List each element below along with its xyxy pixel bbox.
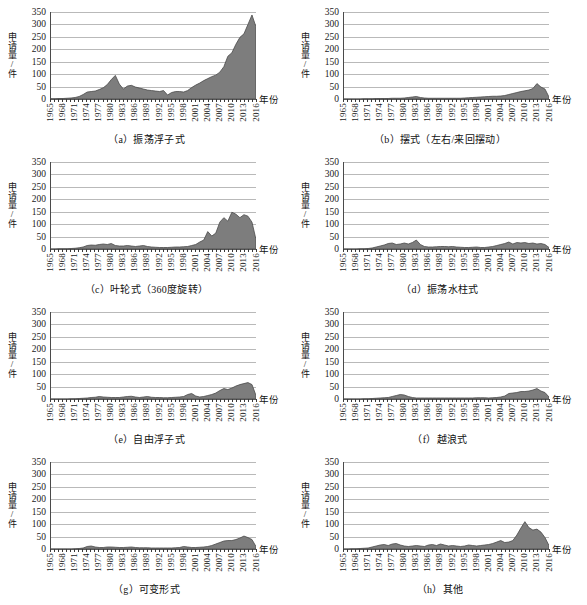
- y-tick-label: 300: [32, 470, 46, 479]
- x-tick-mark: [216, 549, 217, 552]
- x-tick-label: 1995: [167, 553, 176, 572]
- x-tick-label: 2007: [215, 403, 224, 422]
- y-axis-tick-labels: 050100150200250300350: [309, 457, 339, 553]
- x-tick-mark: [371, 399, 372, 402]
- x-tick-mark: [62, 99, 63, 102]
- x-tick-mark: [533, 549, 534, 552]
- x-tick-mark: [371, 99, 372, 102]
- x-tick-mark: [54, 99, 55, 102]
- x-tick-mark: [383, 549, 384, 552]
- x-tick-label: 2007: [508, 403, 517, 422]
- x-tick-mark: [545, 99, 546, 102]
- x-tick-label: 2013: [239, 403, 248, 422]
- x-tick-mark: [347, 549, 348, 552]
- x-tick-mark: [387, 99, 388, 102]
- x-tick-label: 1971: [363, 103, 372, 122]
- x-tick-mark: [74, 99, 75, 102]
- x-tick-label: 1998: [179, 553, 188, 572]
- y-tick-label: 350: [325, 158, 339, 167]
- x-tick-mark: [476, 399, 477, 402]
- x-tick-mark: [456, 549, 457, 552]
- y-axis-title: 申请量/件: [296, 464, 310, 546]
- x-tick-mark: [509, 99, 510, 102]
- x-tick-mark: [86, 549, 87, 552]
- x-tick-mark: [256, 99, 257, 102]
- x-tick-mark: [159, 399, 160, 402]
- plot-area: [50, 162, 256, 249]
- x-tick-mark: [212, 399, 213, 402]
- x-tick-mark: [58, 399, 59, 402]
- x-tick-mark: [521, 399, 522, 402]
- chart-panel-d: 申请量/件05010015020025030035019651968197119…: [293, 150, 587, 300]
- x-tick-mark: [103, 549, 104, 552]
- x-tick-label: 1995: [460, 553, 469, 572]
- x-tick-mark: [155, 249, 156, 252]
- x-tick-mark: [155, 99, 156, 102]
- x-tick-mark: [58, 99, 59, 102]
- x-tick-mark: [50, 399, 51, 402]
- x-tick-label: 1968: [58, 553, 67, 572]
- x-tick-mark: [509, 399, 510, 402]
- x-tick-label: 1974: [82, 403, 91, 422]
- x-tick-mark: [444, 99, 445, 102]
- x-tick-mark: [351, 99, 352, 102]
- x-tick-mark: [396, 399, 397, 402]
- x-tick-label: 2001: [484, 103, 493, 122]
- x-tick-mark: [496, 99, 497, 102]
- x-tick-mark: [135, 249, 136, 252]
- x-tick-mark: [404, 249, 405, 252]
- x-axis-tick-labels: 1965196819711974197719801983198619891992…: [343, 403, 549, 429]
- x-tick-label: 1986: [423, 103, 432, 122]
- x-tick-mark: [521, 549, 522, 552]
- plot-area: [343, 462, 549, 549]
- x-tick-label: 1971: [70, 253, 79, 272]
- x-tick-mark: [208, 99, 209, 102]
- x-tick-label: 2013: [239, 103, 248, 122]
- x-tick-label: 1977: [94, 403, 103, 422]
- x-tick-mark: [492, 549, 493, 552]
- x-tick-mark: [492, 249, 493, 252]
- y-axis-title: 申请量/件: [296, 314, 310, 396]
- x-tick-mark: [175, 549, 176, 552]
- x-axis-title: 年份: [259, 242, 279, 256]
- x-tick-mark: [66, 249, 67, 252]
- y-axis-tick-labels: 050100150200250300350: [309, 157, 339, 253]
- x-tick-mark: [159, 249, 160, 252]
- x-tick-mark: [452, 399, 453, 402]
- x-tick-mark: [424, 249, 425, 252]
- y-tick-label: 50: [37, 232, 47, 241]
- y-tick-label: 50: [330, 382, 340, 391]
- x-tick-mark: [224, 399, 225, 402]
- x-tick-mark: [240, 399, 241, 402]
- y-tick-label: 200: [32, 495, 46, 504]
- x-tick-mark: [212, 249, 213, 252]
- panel-caption: （e）自由浮子式: [0, 431, 293, 446]
- x-tick-mark: [400, 249, 401, 252]
- x-tick-mark: [98, 99, 99, 102]
- x-tick-mark: [131, 399, 132, 402]
- x-tick-mark: [375, 99, 376, 102]
- x-tick-mark: [155, 399, 156, 402]
- x-tick-mark: [359, 249, 360, 252]
- x-tick-label: 1983: [118, 553, 127, 572]
- x-tick-mark: [187, 99, 188, 102]
- x-tick-mark: [127, 399, 128, 402]
- x-tick-mark: [70, 549, 71, 552]
- x-tick-mark: [208, 549, 209, 552]
- x-tick-label: 1974: [82, 253, 91, 272]
- x-tick-mark: [82, 99, 83, 102]
- x-tick-mark: [436, 99, 437, 102]
- x-tick-mark: [533, 249, 534, 252]
- x-tick-mark: [167, 99, 168, 102]
- x-tick-mark: [195, 99, 196, 102]
- x-tick-mark: [492, 399, 493, 402]
- x-tick-mark: [448, 399, 449, 402]
- x-tick-label: 1977: [387, 553, 396, 572]
- x-tick-mark: [375, 399, 376, 402]
- x-tick-label: 1971: [363, 553, 372, 572]
- x-tick-label: 1980: [399, 103, 408, 122]
- x-tick-mark: [98, 399, 99, 402]
- x-tick-mark: [139, 99, 140, 102]
- x-tick-mark: [232, 549, 233, 552]
- x-tick-mark: [183, 549, 184, 552]
